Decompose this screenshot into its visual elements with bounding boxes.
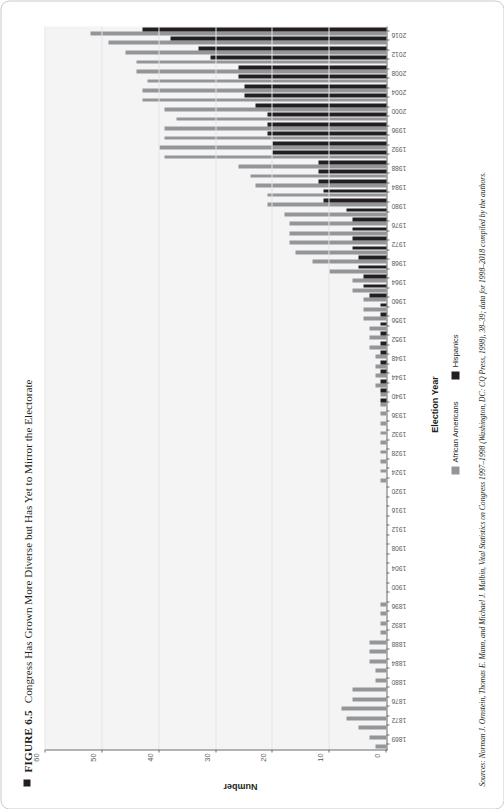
chart-container: Number 010203040506018691872187618801884…	[41, 20, 439, 788]
x-tick-label: 2016	[391, 31, 406, 38]
y-axis-title: Number	[223, 782, 257, 792]
bar-african-americans	[267, 193, 386, 197]
bar-hispanics	[267, 131, 386, 135]
bar-hispanics	[238, 65, 386, 69]
x-tick-label: 1940	[391, 392, 406, 399]
legend-swatch-icon	[451, 371, 459, 379]
y-tick-mark	[158, 749, 159, 752]
y-tick-mark	[385, 749, 386, 752]
legend-item[interactable]: Hispanics	[450, 334, 459, 379]
bar-hispanics	[363, 284, 386, 288]
x-tick-label: 2008	[391, 69, 406, 76]
x-tick-mark	[386, 439, 389, 440]
x-tick-mark	[386, 306, 389, 307]
bar-african-americans	[375, 373, 386, 377]
bar-african-americans	[352, 278, 386, 282]
x-tick-label: 1928	[391, 449, 406, 456]
legend-item[interactable]: African Americans	[450, 401, 459, 474]
bar-hispanics	[380, 369, 386, 373]
bar-african-americans	[369, 735, 386, 739]
bar-hispanics	[267, 112, 386, 116]
x-tick-mark	[386, 734, 389, 735]
source-note: Sources: Norman J. Ornstein, Thomas E. M…	[476, 21, 487, 786]
bar-hispanics	[380, 388, 386, 392]
bar-african-americans	[136, 60, 386, 64]
bar-african-americans	[380, 421, 386, 425]
x-tick-label: 1904	[391, 564, 406, 571]
x-tick-label: 1988	[391, 164, 406, 171]
bar-african-americans	[369, 326, 386, 330]
bar-hispanics	[380, 303, 386, 307]
bar-african-americans	[142, 88, 386, 92]
x-tick-mark	[386, 115, 389, 116]
bar-hispanics	[358, 265, 386, 269]
bar-hispanics	[170, 36, 386, 40]
bar-african-americans	[289, 231, 386, 235]
x-tick-mark	[386, 144, 389, 145]
x-tick-label: 2004	[391, 88, 406, 95]
x-tick-mark	[386, 591, 389, 592]
bar-african-americans	[142, 98, 386, 102]
x-tick-mark	[386, 49, 389, 50]
x-tick-mark	[386, 686, 389, 687]
gridline	[158, 26, 159, 749]
x-tick-mark	[386, 486, 389, 487]
gridline	[44, 26, 45, 749]
x-tick-mark	[386, 220, 389, 221]
bar-african-americans	[90, 31, 386, 35]
bar-hispanics	[210, 55, 386, 59]
x-tick-mark	[386, 277, 389, 278]
y-tick-label: 30	[202, 753, 211, 761]
x-tick-mark	[386, 572, 389, 573]
x-tick-label: 1896	[391, 602, 406, 609]
x-tick-mark	[386, 163, 389, 164]
bar-hispanics	[323, 189, 386, 193]
bar-hispanics	[346, 208, 386, 212]
x-tick-label: 1980	[391, 202, 406, 209]
x-tick-mark	[386, 315, 389, 316]
y-tick-label: 50	[88, 753, 97, 761]
bar-african-americans	[380, 478, 386, 482]
bar-african-americans	[380, 459, 386, 463]
bar-hispanics	[244, 93, 386, 97]
bar-african-americans	[375, 383, 386, 387]
bar-african-americans	[341, 706, 386, 710]
x-tick-label: 1992	[391, 145, 406, 152]
bar-hispanics	[352, 217, 386, 221]
y-tick-mark	[215, 749, 216, 752]
x-axis-title: Election Year	[429, 20, 439, 788]
bar-hispanics	[380, 398, 386, 402]
bar-african-americans	[346, 716, 386, 720]
x-tick-mark	[386, 629, 389, 630]
x-tick-mark	[386, 420, 389, 421]
bar-african-americans	[380, 431, 386, 435]
x-tick-mark	[386, 715, 389, 716]
x-tick-label: 1888	[391, 640, 406, 647]
x-tick-label: 1884	[391, 659, 406, 666]
y-tick-label: 0	[373, 753, 382, 757]
x-tick-label: 1876	[391, 697, 406, 704]
x-tick-mark	[386, 39, 389, 40]
bar-african-americans	[369, 345, 386, 349]
bar-african-americans	[369, 335, 386, 339]
bar-african-americans	[176, 117, 386, 121]
x-tick-mark	[386, 96, 389, 97]
bar-african-americans	[147, 79, 386, 83]
x-tick-mark	[386, 401, 389, 402]
x-tick-mark	[386, 58, 389, 59]
bar-african-americans	[267, 202, 386, 206]
bar-african-americans	[363, 297, 386, 301]
x-tick-mark	[386, 191, 389, 192]
plot-area: 0102030405060186918721876188018841888189…	[45, 26, 387, 750]
x-tick-mark	[386, 563, 389, 564]
x-tick-label: 2000	[391, 107, 406, 114]
bar-african-americans	[250, 174, 386, 178]
x-tick-label: 1976	[391, 221, 406, 228]
bar-african-americans	[375, 744, 386, 748]
x-tick-mark	[386, 153, 389, 154]
bar-hispanics	[363, 274, 386, 278]
bar-african-americans	[164, 107, 386, 111]
bar-african-americans	[375, 354, 386, 358]
bar-hispanics	[267, 122, 386, 126]
x-tick-mark	[386, 106, 389, 107]
